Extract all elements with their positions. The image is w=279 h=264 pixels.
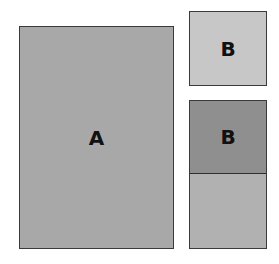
label-a: A [89,126,104,150]
rectangle-remainder [189,174,267,249]
label-b-stacked: B [220,125,235,149]
rectangle-b-stacked: B [189,100,267,175]
rectangle-b-standalone: B [189,11,267,86]
rectangle-a: A [19,26,174,249]
label-b-standalone: B [220,37,235,61]
